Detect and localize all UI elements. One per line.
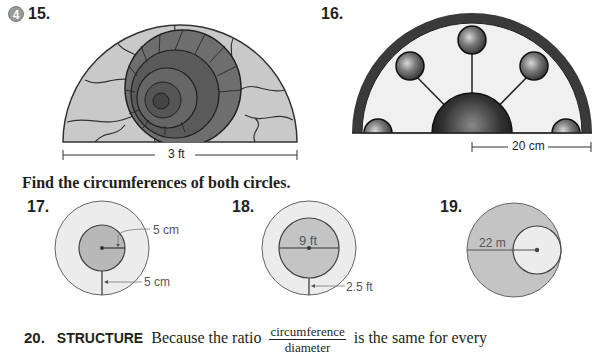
fraction-numerator: circumference: [269, 324, 345, 340]
exercise-20: 20. STRUCTURE Because the ratio circumfe…: [24, 324, 487, 355]
label-18-diameter: 9 ft: [299, 233, 317, 248]
stained-glass-window-figure: [350, 10, 593, 155]
fraction-denominator: diameter: [269, 340, 345, 355]
concentric-circles-18: [255, 198, 395, 298]
ratio-fraction: circumference diameter: [269, 324, 345, 355]
ammonite-window-figure: [55, 10, 305, 160]
label-17-ring-width: 5 cm: [144, 275, 170, 289]
exercise-15-number: 15.: [28, 5, 50, 23]
marble-circle-right: [520, 52, 548, 80]
marble-circle-left: [396, 52, 424, 80]
exercise-level-badge: 4: [8, 6, 24, 22]
exercise-19-number: 19.: [440, 198, 462, 216]
dimension-label-20cm: 20 cm: [512, 139, 545, 153]
exercise-18-number: 18.: [232, 198, 254, 216]
exercise-20-text-after: is the same for every: [354, 329, 487, 346]
dimension-label-3ft: 3 ft: [168, 147, 185, 161]
label-19-diameter: 22 m: [479, 236, 506, 250]
exercise-20-keyword: STRUCTURE: [57, 330, 143, 346]
exercise-20-number: 20.: [24, 329, 45, 346]
marble-circle-top: [458, 26, 486, 54]
label-17-inner-radius: 5 cm: [153, 223, 179, 237]
label-18-ring-width: 2.5 ft: [346, 280, 373, 294]
exercise-17-number: 17.: [27, 198, 49, 216]
exercise-16-number: 16.: [321, 5, 343, 23]
ammonite-shell: [125, 30, 241, 146]
exercise-20-text-before: Because the ratio: [151, 329, 261, 346]
instruction-text: Find the circumferences of both circles.: [22, 174, 290, 192]
